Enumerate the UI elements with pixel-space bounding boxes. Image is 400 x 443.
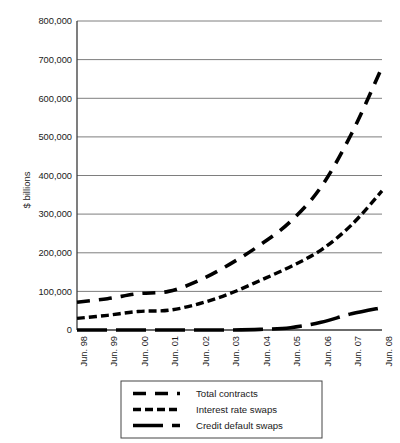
- legend-label: Interest rate swaps: [196, 404, 277, 415]
- x-tick-label: Jun. 00: [140, 336, 150, 367]
- x-tick-label: Jun. 99: [109, 336, 119, 367]
- chart-legend: Total contracts Interest rate swaps Cred…: [121, 381, 322, 438]
- x-tick-labels: Jun. 98 Jun. 99 Jun. 00 Jun. 01 Jun. 02 …: [79, 336, 394, 367]
- y-axis-title: $ billions: [21, 171, 32, 208]
- x-tick-label: Jun. 01: [170, 336, 180, 367]
- x-tick-label: Jun. 07: [353, 336, 363, 367]
- y-tick-label: 0: [67, 325, 72, 335]
- x-tick-label: Jun. 04: [262, 336, 272, 367]
- y-tick-labels: 800,000 700,000 600,000 500,000 400,000 …: [38, 16, 72, 335]
- y-tick-label: 600,000: [38, 94, 72, 104]
- x-tick-label: Jun. 05: [292, 336, 302, 367]
- x-tick-label: Jun. 06: [323, 336, 333, 367]
- y-tick-label: 500,000: [38, 132, 72, 142]
- y-tick-label: 300,000: [38, 209, 72, 219]
- legend-label: Total contracts: [196, 388, 258, 399]
- y-tick-label: 400,000: [38, 171, 72, 181]
- x-tick-label: Jun. 02: [201, 336, 211, 367]
- y-tick-label: 800,000: [38, 16, 72, 26]
- derivatives-line-chart: 800,000 700,000 600,000 500,000 400,000 …: [0, 0, 400, 443]
- y-tick-label: 700,000: [38, 55, 72, 65]
- x-tick-label: Jun. 98: [79, 336, 89, 367]
- y-tick-label: 200,000: [38, 248, 72, 258]
- y-tick-label: 100,000: [38, 287, 72, 297]
- x-tick-label: Jun. 08: [384, 336, 394, 367]
- legend-label: Credit default swaps: [196, 420, 283, 431]
- x-tick-label: Jun. 03: [231, 336, 241, 367]
